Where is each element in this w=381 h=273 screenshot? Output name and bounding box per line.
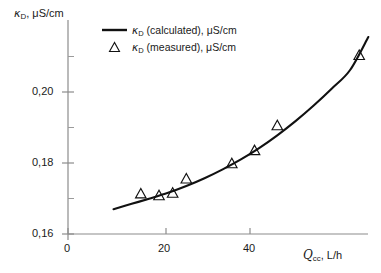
legend-measured-text: (measured), μS/cm: [144, 41, 236, 53]
x-axis-unit: , L/h: [321, 249, 342, 261]
x-tick-label-0: 0: [64, 243, 70, 254]
chart-figure: κD, μS/cm Qcc, L/h 0,20 0,18 0,16 0 20 4…: [0, 0, 381, 273]
series-line-calculated: [114, 37, 369, 209]
x-tick-label-20: 20: [158, 243, 170, 254]
x-axis-symbol: Q: [303, 248, 313, 262]
y-axis-label: κD, μS/cm: [14, 8, 64, 21]
legend-entry-calculated: κD (calculated), μS/cm: [132, 25, 237, 37]
series-markers-measured: [136, 50, 365, 200]
legend-triangle-swatch: [110, 43, 120, 52]
y-minor-ticks: [68, 57, 74, 199]
legend-entry-measured: κD (measured), μS/cm: [132, 42, 236, 54]
y-tick-label-016: 0,16: [32, 228, 53, 239]
x-axis-label: Qcc, L/h: [303, 249, 342, 263]
data-point-marker: [136, 188, 147, 198]
x-axis-subscript: cc: [313, 254, 321, 263]
y-tick-label-020: 0,20: [32, 86, 53, 97]
legend-calculated-text: (calculated), μS/cm: [144, 24, 237, 36]
data-point-marker: [272, 120, 283, 130]
x-tick-label-40: 40: [243, 243, 255, 254]
data-point-marker: [181, 174, 192, 184]
y-axis-unit: , μS/cm: [26, 7, 64, 19]
y-tick-label-018: 0,18: [32, 157, 53, 168]
